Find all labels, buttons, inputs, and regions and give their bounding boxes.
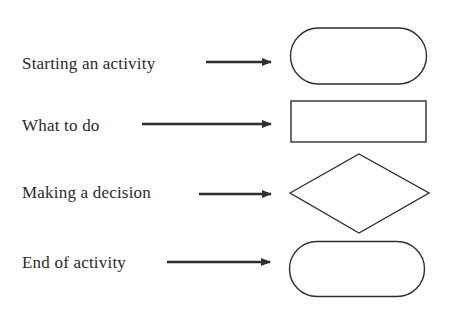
decision-symbol	[290, 154, 429, 233]
symbols-canvas	[0, 0, 452, 311]
terminal-end-symbol	[290, 242, 425, 297]
process-symbol	[291, 101, 426, 142]
terminal-start-symbol	[291, 28, 427, 84]
